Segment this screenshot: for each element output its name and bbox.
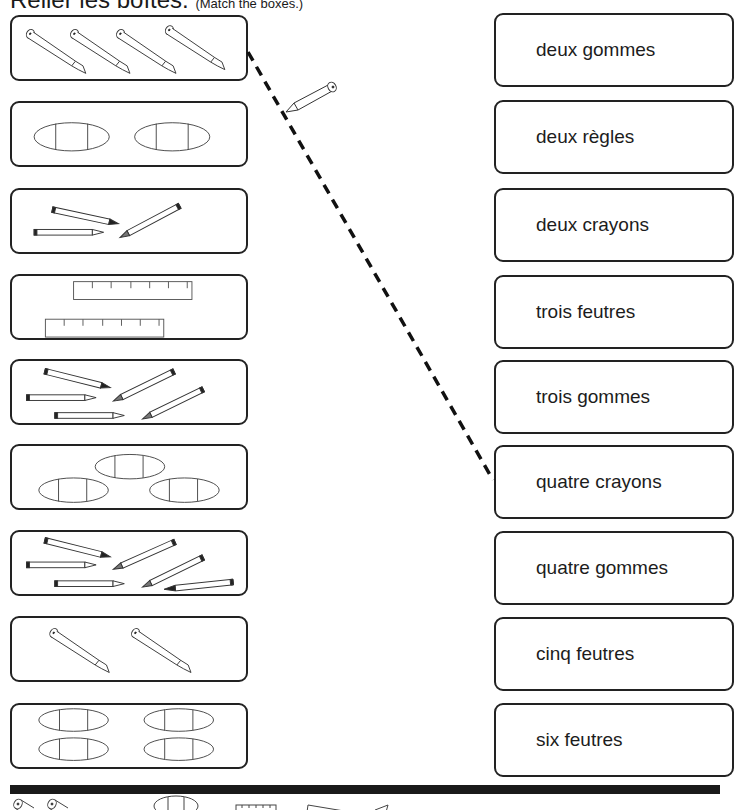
right-box-label: trois feutres — [536, 301, 635, 323]
left-box-four-pencils[interactable] — [10, 15, 248, 81]
right-box-label: cinq feutres — [536, 643, 634, 665]
divider-bar — [10, 785, 720, 794]
pencil-icon — [12, 798, 34, 810]
right-box-label: six feutres — [536, 729, 623, 751]
right-box-deux-crayons[interactable]: deux crayons — [494, 188, 734, 262]
eraser-icon — [12, 103, 246, 165]
right-box-deux-regles[interactable]: deux règles — [494, 100, 734, 174]
right-box-deux-gommes[interactable]: deux gommes — [494, 13, 734, 87]
left-box-two-rulers[interactable] — [10, 274, 248, 340]
right-box-label: trois gommes — [536, 386, 650, 408]
felt-pen-icon — [12, 190, 246, 252]
eraser-icon — [154, 796, 198, 810]
bottom-icon-strip — [0, 794, 720, 810]
right-box-label: deux règles — [536, 126, 634, 148]
felt-pen-icon — [12, 361, 246, 423]
pencil-icon — [46, 798, 68, 810]
right-box-trois-gommes[interactable]: trois gommes — [494, 360, 734, 434]
right-box-label: deux gommes — [536, 39, 655, 61]
left-box-two-erasers[interactable] — [10, 101, 248, 167]
right-box-quatre-gommes[interactable]: quatre gommes — [494, 531, 734, 605]
left-box-six-felt-pens[interactable] — [10, 530, 248, 596]
left-box-four-erasers[interactable] — [10, 703, 248, 769]
right-box-label: quatre gommes — [536, 557, 668, 579]
pencil-icon — [286, 81, 338, 112]
left-box-two-pencils[interactable] — [10, 616, 248, 682]
eraser-icon — [12, 705, 246, 767]
ruler-icon — [236, 805, 276, 810]
pencil-icon — [12, 618, 246, 680]
right-box-label: deux crayons — [536, 214, 649, 236]
ruler-icon — [12, 276, 246, 338]
title-main: Relier les boîtes. — [10, 0, 189, 13]
right-box-six-feutres[interactable]: six feutres — [494, 703, 734, 777]
felt-pen-icon — [307, 805, 388, 810]
right-box-trois-feutres[interactable]: trois feutres — [494, 275, 734, 349]
right-box-cinq-feutres[interactable]: cinq feutres — [494, 617, 734, 691]
pencil-icon — [12, 17, 246, 79]
felt-pen-icon — [12, 532, 246, 594]
left-box-three-erasers[interactable] — [10, 444, 248, 510]
left-box-five-felt-pens[interactable] — [10, 359, 248, 425]
left-box-three-felt-pens[interactable] — [10, 188, 248, 254]
right-box-label: quatre crayons — [536, 471, 662, 493]
title-subtitle: (Match the boxes.) — [195, 0, 303, 11]
right-box-quatre-crayons[interactable]: quatre crayons — [494, 445, 734, 519]
worksheet-title: Relier les boîtes. (Match the boxes.) — [10, 0, 303, 16]
eraser-icon — [12, 446, 246, 508]
